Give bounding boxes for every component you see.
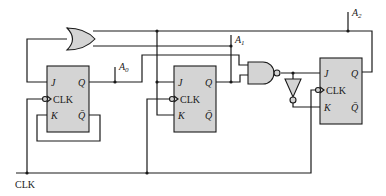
wire-a2-to-or <box>93 12 348 31</box>
ff0-k-label: K <box>50 110 59 121</box>
junction-dot <box>145 171 148 174</box>
ff2-qbar-label: Q̄ <box>351 102 359 113</box>
wire-clk-ff0 <box>27 99 43 173</box>
ff1-clk-bubble <box>170 97 175 102</box>
ff1-j-label: J <box>178 77 183 88</box>
ff2-clk-bubble <box>316 88 321 93</box>
ff1-q-label: Q <box>205 77 213 88</box>
ff2-k-label: K <box>323 102 332 113</box>
ff0-clk-label: CLK <box>53 94 74 105</box>
ff1-qbar-label: Q̄ <box>205 110 213 121</box>
nand-bubble <box>274 70 280 76</box>
circuit-diagram: J CLK K Q Q̄ J CLK K Q Q̄ J CLK K Q Q̄ A… <box>0 0 386 196</box>
circuit-svg: J CLK K Q Q̄ J CLK K Q Q̄ J CLK K Q Q̄ A… <box>0 0 386 196</box>
ff0-j-label: J <box>51 77 56 88</box>
ff0-qbar-label: Q̄ <box>78 110 86 121</box>
junction-dot <box>155 80 158 83</box>
junction-dot <box>155 29 158 32</box>
wire-ff0-q-a0 <box>89 55 248 82</box>
inverter <box>285 79 301 103</box>
inverter-bubble <box>290 97 296 103</box>
junction-dot <box>25 171 28 174</box>
junction-dot <box>229 44 232 47</box>
inverter-body <box>285 79 301 97</box>
a1-label: A1 <box>234 34 245 47</box>
wire-a1-to-or <box>93 35 231 46</box>
ff0-q-label: Q <box>78 77 86 88</box>
clk-input-label: CLK <box>15 179 36 190</box>
ff1-clk-label: CLK <box>180 94 201 105</box>
wire-ff1-j <box>157 31 174 82</box>
junction-dot <box>229 80 232 83</box>
ff2-clk-label: CLK <box>326 85 347 96</box>
or-gate <box>67 28 95 50</box>
wire-clk-ff1 <box>147 99 170 173</box>
junction-dot <box>346 29 349 32</box>
nand-gate <box>248 62 280 84</box>
ff2-j-label: J <box>324 68 329 79</box>
junction-dot <box>113 80 116 83</box>
flip-flop-2: J CLK K Q Q̄ <box>316 58 363 124</box>
a0-label: A0 <box>118 61 129 74</box>
a2-label: A2 <box>351 7 362 20</box>
junction-dot <box>291 71 294 74</box>
ff2-q-label: Q <box>351 68 359 79</box>
ff1-k-label: K <box>177 110 186 121</box>
wire-inv-to-ff2-k <box>293 103 320 107</box>
nand-body <box>248 62 274 84</box>
flip-flop-0: J CLK K Q Q̄ <box>43 66 90 132</box>
ff0-clk-bubble <box>43 97 48 102</box>
flip-flop-1: J CLK K Q Q̄ <box>170 66 217 132</box>
